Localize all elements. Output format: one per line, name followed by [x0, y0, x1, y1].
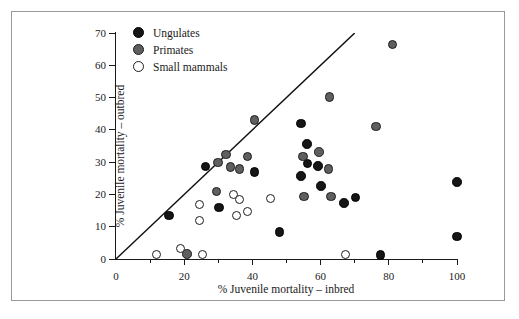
data-point-ungulate — [275, 227, 285, 237]
x-tick-60 — [320, 259, 321, 265]
x-minor-tick-70 — [354, 259, 355, 263]
x-tick-label-text: 60 — [315, 270, 326, 282]
y-tick-label-50: 50 — [84, 92, 106, 102]
y-tick-0 — [109, 259, 115, 260]
x-tick-label-0: 0 — [101, 266, 131, 284]
legend-item-small[interactable]: Small mammals — [133, 58, 227, 75]
data-point-primate — [325, 92, 335, 102]
data-point-ungulate — [339, 198, 349, 208]
x-minor-tick-10 — [150, 259, 151, 263]
chart-legend: UngulatesPrimatesSmall mammals — [133, 24, 227, 75]
scatter-plot: 010203040506070 020406080100 % Juvenile … — [0, 0, 519, 319]
data-point-ungulate — [250, 167, 260, 177]
x-tick-label-40: 40 — [237, 266, 267, 284]
y-tick-label-text: 40 — [84, 124, 106, 135]
data-point-ungulate — [214, 203, 224, 213]
y-tick-label-60: 60 — [84, 60, 106, 70]
data-point-small — [198, 250, 207, 259]
y-tick-70 — [109, 33, 115, 34]
y-tick-label-text: 10 — [84, 221, 106, 232]
data-point-primate — [226, 162, 236, 172]
y-tick-label-text: 60 — [84, 60, 106, 71]
data-point-primate — [371, 122, 381, 132]
x-tick-label-20: 20 — [169, 266, 199, 284]
y-tick-label-20: 20 — [84, 189, 106, 199]
x-minor-tick-30 — [218, 259, 219, 263]
data-point-ungulate — [376, 250, 386, 260]
data-point-ungulate — [452, 232, 462, 242]
data-point-primate — [235, 164, 245, 174]
y-tick-label-text: 50 — [84, 92, 106, 103]
x-minor-tick-50 — [286, 259, 287, 263]
x-axis-title: % Juvenile mortality – inbred — [115, 283, 457, 295]
x-tick-label-100: 100 — [442, 266, 472, 284]
data-point-primate — [250, 115, 260, 125]
y-axis-title: % Juvenile mortality – outbred — [114, 61, 126, 251]
data-point-small — [232, 211, 241, 220]
data-point-ungulate — [351, 193, 361, 203]
data-point-primate — [299, 192, 309, 202]
legend-item-label: Ungulates — [153, 27, 200, 39]
legend-item-label: Small mammals — [153, 61, 227, 73]
x-tick-label-60: 60 — [306, 266, 336, 284]
x-tick-label-80: 80 — [374, 266, 404, 284]
figure-container: 010203040506070 020406080100 % Juvenile … — [0, 0, 519, 319]
x-tick-20 — [184, 259, 185, 265]
y-tick-label-40: 40 — [84, 124, 106, 134]
y-tick-label-10: 10 — [84, 221, 106, 231]
data-point-ungulate — [313, 161, 323, 171]
data-point-small — [235, 195, 244, 204]
data-point-ungulate — [296, 171, 306, 181]
data-point-ungulate — [302, 139, 312, 149]
legend-item-ungulate[interactable]: Ungulates — [133, 24, 227, 41]
data-point-primate — [326, 192, 336, 202]
y-tick-label-text: 70 — [84, 28, 106, 39]
y-tick-label-text: 20 — [84, 189, 106, 200]
y-tick-label-text: 30 — [84, 157, 106, 168]
y-tick-label-0: 0 — [84, 254, 106, 264]
data-point-small — [195, 200, 204, 209]
x-minor-tick-90 — [422, 259, 423, 263]
data-point-ungulate — [452, 177, 462, 187]
y-tick-label-70: 70 — [84, 28, 106, 38]
legend-marker-primate-icon — [133, 44, 144, 55]
data-point-primate — [388, 40, 398, 50]
data-point-primate — [324, 164, 334, 174]
x-tick-label-text: 100 — [449, 270, 466, 282]
x-tick-100 — [457, 259, 458, 265]
data-point-ungulate — [316, 181, 326, 191]
y-tick-label-30: 30 — [84, 157, 106, 167]
data-point-ungulate — [296, 119, 306, 129]
legend-marker-small-icon — [133, 61, 144, 72]
x-tick-label-text: 80 — [383, 270, 394, 282]
legend-marker-ungulate-icon — [133, 27, 144, 38]
x-tick-label-text: 0 — [113, 270, 119, 282]
x-tick-label-text: 20 — [179, 270, 190, 282]
x-tick-label-text: 40 — [247, 270, 258, 282]
data-point-small — [341, 250, 350, 259]
data-point-primate — [221, 150, 231, 160]
legend-item-primate[interactable]: Primates — [133, 41, 227, 58]
y-tick-label-text: 0 — [84, 254, 106, 265]
data-point-primate — [213, 158, 223, 168]
legend-item-label: Primates — [153, 44, 193, 56]
x-tick-80 — [388, 259, 389, 265]
data-point-primate — [314, 147, 324, 157]
y-axis-title-holder: % Juvenile mortality – outbred — [55, 45, 75, 245]
x-tick-40 — [252, 259, 253, 265]
data-point-small — [152, 250, 161, 259]
data-point-ungulate — [164, 211, 174, 221]
